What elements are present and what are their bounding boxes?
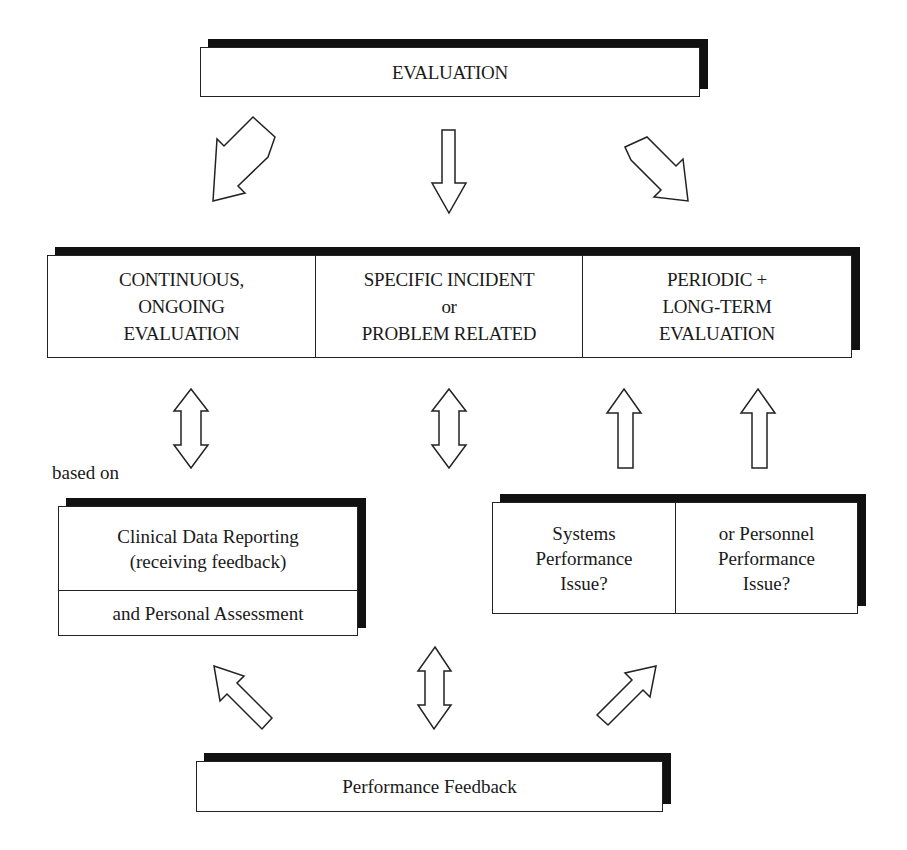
performance-feedback-title: Performance Feedback	[197, 762, 662, 811]
personnel-performance-cell: or Personnel Performance Issue?	[675, 503, 857, 613]
clinical-data-reporting-cell: Clinical Data Reporting (receiving feedb…	[59, 507, 357, 591]
arrow-down-icon	[432, 130, 466, 213]
evaluation-box: EVALUATION	[200, 47, 700, 97]
evaluation-title: EVALUATION	[201, 48, 699, 96]
performance-feedback-box: Performance Feedback	[196, 761, 663, 812]
arrows-layer	[0, 0, 907, 850]
clinical-data-box: Clinical Data Reporting (receiving feedb…	[58, 506, 358, 636]
arrow-up-icon	[741, 389, 775, 468]
periodic-evaluation-cell: PERIODIC + LONG-TERM EVALUATION	[582, 256, 851, 357]
arrow-down-left-icon	[213, 117, 275, 201]
performance-issue-box: Systems Performance Issue? or Personnel …	[492, 502, 858, 614]
based-on-label: based on	[52, 462, 119, 484]
systems-performance-cell: Systems Performance Issue?	[493, 503, 675, 613]
personal-assessment-cell: and Personal Assessment	[59, 591, 357, 635]
specific-incident-cell: SPECIFIC INCIDENT or PROBLEM RELATED	[315, 256, 582, 357]
double-arrow-vertical-icon	[418, 647, 451, 729]
double-arrow-vertical-icon	[174, 389, 208, 468]
continuous-evaluation-cell: CONTINUOUS, ONGOING EVALUATION	[48, 256, 315, 357]
arrow-up-icon	[607, 389, 641, 468]
arrow-up-left-icon	[214, 666, 272, 729]
arrow-up-right-icon	[597, 666, 656, 725]
arrow-down-right-icon	[625, 137, 688, 201]
evaluation-types-box: CONTINUOUS, ONGOING EVALUATION SPECIFIC …	[47, 255, 852, 358]
double-arrow-vertical-icon	[432, 389, 466, 468]
